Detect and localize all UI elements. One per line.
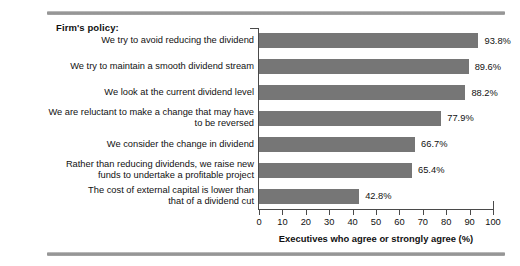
bar-value-label: 65.4% bbox=[418, 165, 444, 175]
x-axis-tick-label: 60 bbox=[394, 217, 404, 227]
bar-row: We try to maintain a smooth dividend str… bbox=[0, 54, 520, 80]
bar-category-label: Rather than reducing dividends, we raise… bbox=[22, 159, 254, 181]
bar-category-label: We try to maintain a smooth dividend str… bbox=[22, 61, 254, 72]
x-axis-tick-label: 20 bbox=[301, 217, 311, 227]
x-axis-tick-label: 40 bbox=[347, 217, 357, 227]
bar-category-label: We try to avoid reducing the dividend bbox=[22, 35, 254, 46]
bar-rows: We try to avoid reducing the dividend93.… bbox=[0, 28, 520, 209]
bar bbox=[259, 33, 478, 48]
x-axis-tick bbox=[376, 209, 377, 215]
x-axis-tick bbox=[282, 209, 283, 215]
bar-row: Rather than reducing dividends, we raise… bbox=[0, 157, 520, 183]
bar-value-label: 88.2% bbox=[471, 88, 497, 98]
bar-row: The cost of external capital is lower th… bbox=[0, 183, 520, 209]
bar-value-label: 77.9% bbox=[447, 113, 473, 123]
bar-row: We try to avoid reducing the dividend93.… bbox=[0, 28, 520, 54]
bar-row: We are reluctant to make a change that m… bbox=[0, 106, 520, 132]
bar bbox=[259, 59, 469, 74]
x-axis-title: Executives who agree or strongly agree (… bbox=[258, 233, 494, 244]
bar-category-label: We consider the change in dividend bbox=[22, 139, 254, 150]
x-axis-tick-label: 0 bbox=[256, 217, 261, 227]
bar-category-label: The cost of external capital is lower th… bbox=[22, 185, 254, 207]
x-axis-tick bbox=[259, 209, 260, 215]
x-axis-tick-label: 90 bbox=[464, 217, 474, 227]
x-axis-tick bbox=[470, 209, 471, 215]
bar-chart: We try to avoid reducing the dividend93.… bbox=[0, 0, 520, 266]
bar-row: We consider the change in dividend66.7% bbox=[0, 131, 520, 157]
x-axis-tick bbox=[329, 209, 330, 215]
bar-value-label: 93.8% bbox=[484, 36, 510, 46]
x-axis-tick-label: 10 bbox=[277, 217, 287, 227]
x-axis-tick bbox=[306, 209, 307, 215]
x-axis-tick-label: 30 bbox=[324, 217, 334, 227]
x-axis-tick-label: 80 bbox=[441, 217, 451, 227]
x-axis-tick bbox=[353, 209, 354, 215]
bar-row: We look at the current dividend level88.… bbox=[0, 80, 520, 106]
bar-category-label: We look at the current dividend level bbox=[22, 87, 254, 98]
x-axis-tick-label: 70 bbox=[418, 217, 428, 227]
x-axis-tick-label: 50 bbox=[371, 217, 381, 227]
x-axis-tick bbox=[423, 209, 424, 215]
bar-value-label: 89.6% bbox=[475, 62, 501, 72]
x-axis-ticks: 0102030405060708090100 bbox=[0, 209, 520, 233]
x-axis-tick-label: 100 bbox=[485, 217, 501, 227]
bar bbox=[259, 85, 465, 100]
bar bbox=[259, 163, 412, 178]
bar bbox=[259, 111, 441, 126]
bar-value-label: 42.8% bbox=[365, 191, 391, 201]
bar bbox=[259, 137, 415, 152]
x-axis-tick bbox=[446, 209, 447, 215]
x-axis-tick bbox=[399, 209, 400, 215]
bar-category-label: We are reluctant to make a change that m… bbox=[22, 107, 254, 129]
bar-value-label: 66.7% bbox=[421, 139, 447, 149]
x-axis-tick bbox=[493, 209, 494, 215]
bar bbox=[259, 189, 359, 204]
